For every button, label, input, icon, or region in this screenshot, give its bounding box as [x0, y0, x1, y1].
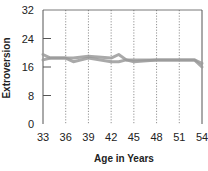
plot-frame — [43, 10, 202, 124]
y-tick-label: 8 — [28, 90, 34, 102]
y-tick-label: 0 — [28, 118, 34, 130]
x-tick-label: 39 — [82, 131, 94, 143]
x-tick-label: 36 — [60, 131, 72, 143]
data-series — [43, 55, 202, 68]
y-tick-label: 24 — [22, 33, 34, 45]
x-axis-ticks: 3336394245485154 — [37, 131, 208, 143]
x-tick-label: 48 — [150, 131, 162, 143]
x-tick-label: 33 — [37, 131, 49, 143]
series-line — [43, 58, 202, 67]
x-tick-label: 54 — [196, 131, 208, 143]
x-tick-label: 51 — [173, 131, 185, 143]
y-axis-ticks: 08162432 — [22, 4, 51, 130]
line-chart: 08162432 3336394245485154 Age in Years E… — [0, 0, 208, 171]
y-tick-label: 16 — [22, 61, 34, 73]
x-tick-label: 45 — [128, 131, 140, 143]
y-axis-title: Extroversion — [1, 37, 12, 98]
y-tick-label: 32 — [22, 4, 34, 16]
x-tick-label: 42 — [105, 131, 117, 143]
x-axis-title: Age in Years — [94, 153, 154, 164]
vertical-gridlines — [66, 10, 180, 124]
